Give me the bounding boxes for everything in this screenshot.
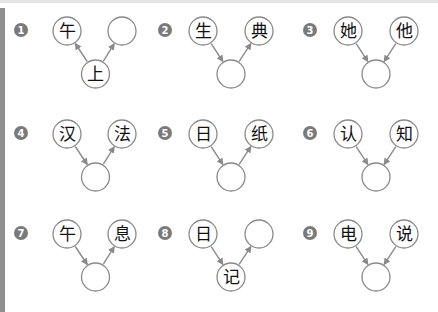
character-label: 电 — [340, 224, 357, 244]
blank-answer-circle-bottom[interactable] — [82, 263, 110, 291]
number-badge-label: 4 — [18, 128, 25, 139]
character-label: 法 — [114, 124, 131, 144]
blank-answer-circle-right[interactable] — [245, 220, 273, 248]
character-label: 认 — [340, 124, 357, 144]
number-badge-label: 2 — [162, 25, 169, 36]
arrow-connector — [75, 147, 87, 165]
exercise-panel-7: 7午息 — [14, 220, 136, 291]
character-label: 纸 — [251, 124, 268, 144]
number-badge-label: 8 — [162, 228, 169, 239]
character-label: 她 — [340, 21, 357, 41]
arrow-connector — [103, 147, 114, 164]
character-label: 他 — [396, 21, 413, 41]
arrow-connector — [356, 147, 368, 165]
character-label: 记 — [223, 267, 240, 287]
arrow-connector — [75, 247, 87, 265]
number-badge-label: 6 — [307, 128, 314, 139]
arrow-connector — [239, 247, 251, 265]
character-label: 汉 — [59, 124, 76, 144]
arrow-connector — [75, 44, 87, 62]
number-badge-label: 7 — [18, 228, 25, 239]
character-label: 午 — [59, 21, 76, 41]
arrow-connector — [384, 247, 396, 265]
exercise-panel-3: 3她他 — [303, 17, 418, 88]
blank-answer-circle-right[interactable] — [108, 17, 136, 45]
character-label: 午 — [59, 224, 76, 244]
exercise-panel-2: 2生典 — [158, 17, 273, 88]
character-label: 说 — [396, 224, 413, 244]
character-label: 知 — [396, 124, 413, 144]
arrow-connector — [211, 44, 223, 62]
exercise-panel-8: 8日记 — [158, 220, 273, 291]
arrow-connector — [356, 44, 368, 62]
exercise-panel-6: 6认知 — [303, 120, 418, 191]
number-badge-label: 3 — [307, 25, 314, 36]
character-label: 生 — [195, 21, 212, 41]
blank-answer-circle-bottom[interactable] — [82, 163, 110, 191]
exercise-canvas: 1午上2生典3她他4汉法5日纸6认知7午息8日记9电说 — [0, 0, 438, 312]
arrow-connector — [211, 147, 223, 165]
exercise-panel-5: 5日纸 — [158, 120, 273, 191]
character-label: 上 — [87, 64, 104, 84]
character-label: 息 — [114, 224, 131, 244]
arrow-connector — [239, 147, 251, 165]
exercise-panel-9: 9电说 — [303, 220, 418, 291]
character-label: 日 — [195, 224, 212, 244]
arrow-connector — [239, 44, 251, 62]
number-badge-label: 5 — [162, 128, 169, 139]
exercise-panel-1: 1午上 — [14, 17, 136, 88]
arrow-connector — [103, 247, 114, 264]
blank-answer-circle-bottom[interactable] — [217, 60, 245, 88]
arrow-connector — [356, 247, 368, 265]
exercise-panel-4: 4汉法 — [14, 120, 136, 191]
blank-answer-circle-bottom[interactable] — [362, 263, 390, 291]
character-label: 日 — [195, 124, 212, 144]
character-label: 典 — [251, 21, 268, 41]
arrow-connector — [103, 44, 114, 61]
blank-answer-circle-bottom[interactable] — [362, 163, 390, 191]
blank-answer-circle-bottom[interactable] — [217, 163, 245, 191]
arrow-connector — [384, 147, 396, 165]
arrow-connector — [384, 44, 396, 62]
blank-answer-circle-bottom[interactable] — [362, 60, 390, 88]
arrow-connector — [211, 247, 223, 265]
number-badge-label: 9 — [307, 228, 314, 239]
number-badge-label: 1 — [18, 25, 25, 36]
